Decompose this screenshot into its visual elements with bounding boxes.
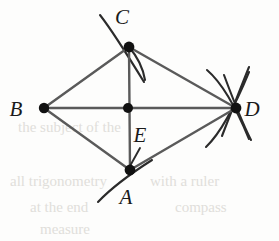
- ghost-text-line: at the end: [30, 199, 89, 215]
- ghost-text-line: all trigonometry: [10, 173, 108, 189]
- ghost-text-line: measure: [40, 221, 90, 237]
- vertex-dot-b: [39, 103, 49, 113]
- vertex-dot-a: [125, 165, 136, 176]
- ghost-text-line: with a ruler: [150, 173, 219, 189]
- ghost-text-line: compass: [175, 199, 227, 215]
- vertex-label-b: B: [10, 97, 23, 121]
- leader-line-e: [130, 148, 140, 166]
- vertex-label-c: C: [115, 5, 130, 29]
- geometry-diagram-canvas: the subject of the all trigonometry with…: [0, 0, 279, 241]
- segment-ba: [44, 108, 130, 170]
- vertex-dot-d: [231, 103, 242, 114]
- vertex-label-d: D: [243, 97, 259, 121]
- vertex-dot-c: [124, 42, 135, 53]
- vertex-dot-e: [123, 103, 133, 113]
- geometry-figure: the subject of the all trigonometry with…: [0, 0, 279, 241]
- vertex-label-a: A: [118, 185, 133, 209]
- segment-bc: [44, 47, 129, 108]
- vertex-label-e: E: [133, 123, 147, 147]
- ghost-text-layer: the subject of the all trigonometry with…: [10, 119, 227, 237]
